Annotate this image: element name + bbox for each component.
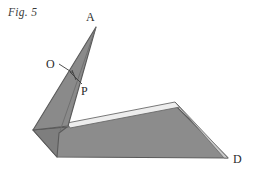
folded-paper-diagram [0,0,256,173]
narrow-spike-flap [33,27,96,130]
figure-container: Fig. 5 A O P D [0,0,256,173]
figure-caption: Fig. 5 [8,6,37,18]
vertex-label-o: O [46,58,55,70]
vertex-label-a: A [86,11,95,23]
vertex-label-p: P [81,85,88,97]
vertex-label-d: D [233,153,242,165]
